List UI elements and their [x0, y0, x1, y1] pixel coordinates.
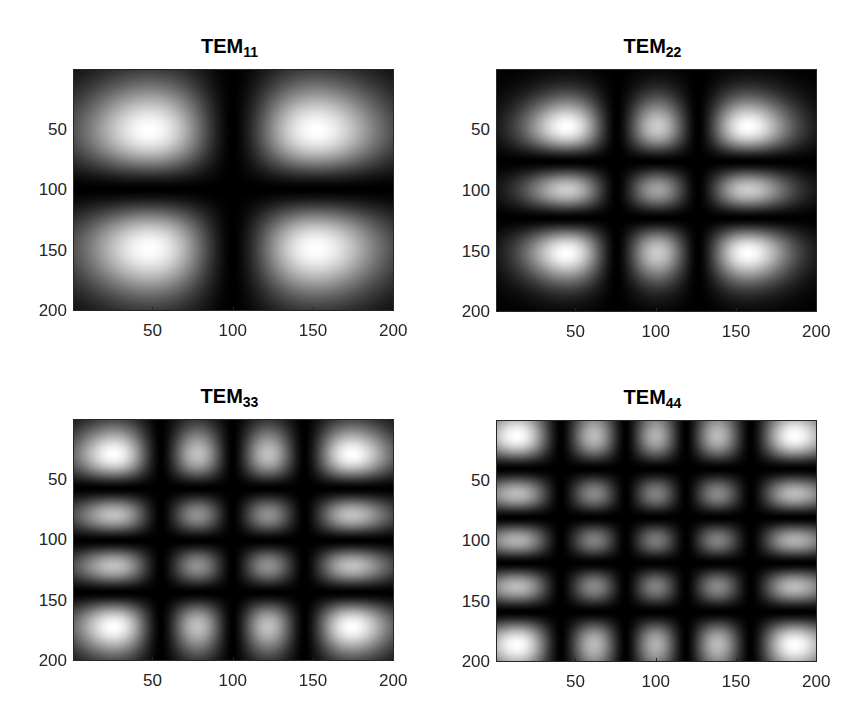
image-axes: [496, 69, 817, 312]
y-tick-label: 200: [462, 303, 490, 320]
x-tick-label: 150: [722, 323, 750, 340]
x-tick-label: 200: [379, 322, 407, 339]
x-tick-label: 150: [299, 322, 327, 339]
x-tick-label: 100: [219, 322, 247, 339]
x-tick-label: 50: [143, 672, 162, 689]
x-tick-label: 50: [566, 673, 585, 690]
x-tick-mark: [152, 307, 153, 310]
x-tick-mark: [656, 308, 657, 311]
subplot-title: TEM22: [624, 36, 682, 56]
x-tick-mark: [656, 658, 657, 661]
x-tick-mark: [575, 308, 576, 311]
x-tick-mark: [816, 658, 817, 661]
title-main: TEM: [201, 385, 243, 407]
x-tick-label: 150: [299, 672, 327, 689]
y-tick-label: 100: [39, 181, 67, 198]
x-tick-label: 150: [722, 673, 750, 690]
y-tick-label: 100: [39, 531, 67, 548]
x-tick-mark: [233, 307, 234, 310]
title-subscript: 11: [243, 44, 258, 60]
x-tick-label: 200: [802, 323, 830, 340]
x-tick-label: 50: [566, 323, 585, 340]
image-axes: [73, 69, 394, 311]
x-tick-mark: [393, 307, 394, 310]
subplot-title: TEM44: [624, 387, 682, 407]
x-tick-mark: [393, 657, 394, 660]
x-tick-mark: [736, 658, 737, 661]
x-tick-label: 100: [642, 673, 670, 690]
x-tick-label: 100: [219, 672, 247, 689]
y-tick-label: 200: [462, 653, 490, 670]
mode-intensity-image: [74, 70, 393, 310]
x-tick-mark: [736, 308, 737, 311]
y-tick-label: 150: [462, 242, 490, 259]
image-axes: [73, 419, 394, 661]
y-tick-label: 200: [39, 652, 67, 669]
y-tick-label: 100: [462, 181, 490, 198]
y-tick-label: 150: [462, 592, 490, 609]
y-tick-label: 50: [471, 121, 490, 138]
subplot-title: TEM33: [201, 386, 259, 406]
mode-intensity-image: [497, 421, 816, 661]
x-tick-label: 200: [379, 672, 407, 689]
subplot-title: TEM11: [201, 36, 258, 56]
title-subscript: 33: [243, 394, 259, 410]
mode-intensity-image: [497, 70, 816, 311]
y-tick-label: 100: [462, 532, 490, 549]
y-tick-label: 200: [39, 302, 67, 319]
x-tick-mark: [313, 307, 314, 310]
title-main: TEM: [624, 35, 666, 57]
y-tick-label: 150: [39, 241, 67, 258]
x-tick-mark: [233, 657, 234, 660]
title-main: TEM: [201, 35, 243, 57]
title-subscript: 22: [666, 44, 682, 60]
title-main: TEM: [624, 386, 666, 408]
y-tick-label: 150: [39, 591, 67, 608]
x-tick-mark: [575, 658, 576, 661]
y-tick-label: 50: [471, 471, 490, 488]
title-subscript: 44: [666, 395, 682, 411]
x-tick-label: 100: [642, 323, 670, 340]
mode-intensity-image: [74, 420, 393, 660]
x-tick-mark: [313, 657, 314, 660]
x-tick-mark: [816, 308, 817, 311]
x-tick-mark: [152, 657, 153, 660]
y-tick-label: 50: [48, 120, 67, 137]
x-tick-label: 200: [802, 673, 830, 690]
y-tick-label: 50: [48, 470, 67, 487]
x-tick-label: 50: [143, 322, 162, 339]
image-axes: [496, 420, 817, 662]
